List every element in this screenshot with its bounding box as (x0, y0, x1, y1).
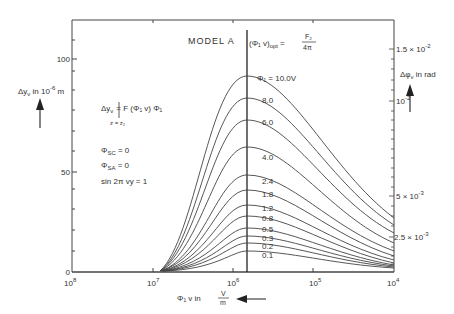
svg-text:ΦSC = 0: ΦSC = 0 (101, 146, 130, 156)
svg-text:V: V (221, 290, 226, 297)
curve-label-2-4: 2.4 (262, 177, 274, 186)
arrow-left-icon (236, 295, 266, 303)
curve-label-8-0: 8.0 (262, 96, 274, 105)
y-right-axis-title: Δφv in rad (400, 70, 436, 80)
svg-text:10-2: 10-2 (396, 95, 411, 106)
curve-1-8 (161, 190, 394, 271)
curve-label-6-0: 6.0 (262, 118, 274, 127)
svg-text:5 × 10-3: 5 × 10-3 (396, 190, 424, 201)
svg-text:108: 108 (64, 277, 77, 288)
chart: Φ₁ = 10.0V 8.0 6.0 4.0 2.4 1.8 1.2 0.8 0… (0, 0, 454, 314)
curve-label-0-2: 0.2 (262, 242, 274, 251)
svg-text:1.5 × 10-2: 1.5 × 10-2 (396, 43, 431, 54)
arrow-up-icon (36, 98, 44, 128)
optimum-label: (Φ₁ v)opt= F₂ 4π (249, 33, 316, 51)
curve-label-10-0: Φ₁ = 10.0V (257, 74, 297, 83)
svg-text:F₂: F₂ (305, 33, 312, 40)
chart-title: MODEL A (188, 36, 235, 46)
y-left-axis-title: Δyv in 10-6 m (18, 85, 64, 97)
svg-text:m: m (220, 299, 226, 306)
equation-annotation: Δyv= F (Φ₁ v) Φ₁ z = z₂ (101, 102, 163, 126)
y-left-ticks (72, 40, 77, 251)
phi-sc-annotation: ΦSC = 0 (101, 146, 130, 156)
x-axis-title: Φ₁ v in V m (177, 290, 229, 306)
x-tick-labels: 108 107 106 105 104 (64, 277, 400, 288)
curve-label-0-5: 0.5 (262, 225, 274, 234)
svg-text:2.5 × 10-3: 2.5 × 10-3 (394, 231, 429, 242)
svg-text:0: 0 (66, 268, 71, 277)
svg-text:106: 106 (227, 277, 240, 288)
svg-text:ΦSA = 0: ΦSA = 0 (101, 161, 130, 171)
svg-text:z = z₂: z = z₂ (110, 120, 126, 126)
svg-text:104: 104 (387, 277, 400, 288)
svg-text:100: 100 (57, 55, 71, 64)
svg-text:Φ₁ v in: Φ₁ v in (177, 294, 201, 303)
phi-sa-annotation: ΦSA = 0 (101, 161, 130, 171)
svg-text:107: 107 (147, 277, 160, 288)
svg-text:105: 105 (309, 277, 322, 288)
curve-label-0-8: 0.8 (262, 214, 274, 223)
svg-text:Δyv in 10-6 m: Δyv in 10-6 m (18, 85, 64, 97)
curve-label-0-1: 0.1 (262, 251, 274, 260)
curve-label-4-0: 4.0 (262, 153, 274, 162)
curve-8-0 (160, 98, 394, 271)
curve-label-1-2: 1.2 (262, 204, 274, 213)
svg-text:Δφv in rad: Δφv in rad (400, 70, 436, 80)
curve-label-1-8: 1.8 (262, 190, 274, 199)
curves (160, 76, 394, 271)
svg-text:Δyv= F (Φ₁ v) Φ₁: Δyv= F (Φ₁ v) Φ₁ (101, 104, 163, 114)
svg-text:(Φ₁ v)opt=: (Φ₁ v)opt= (249, 39, 285, 49)
sin-annotation: sin 2π vy = 1 (101, 177, 148, 186)
svg-text:50: 50 (61, 168, 70, 177)
svg-text:4π: 4π (303, 44, 312, 51)
